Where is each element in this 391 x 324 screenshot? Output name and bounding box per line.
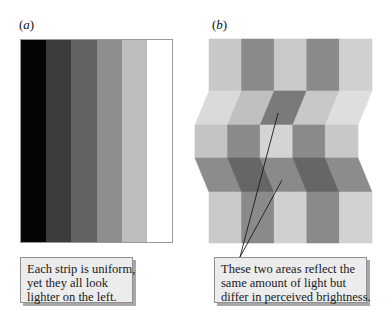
shade-cell-r3-c1 — [195, 125, 228, 158]
shade-cell-r5-c1 — [209, 192, 242, 243]
shade-cell-r1-c4 — [307, 39, 340, 91]
shade-cell-r2-c5 — [325, 91, 372, 125]
shade-cell-r1-c1 — [209, 39, 242, 91]
gray-strip-3 — [71, 40, 96, 242]
shade-cell-r4-c4 — [293, 158, 340, 192]
shade-cell-r3-c3 — [260, 125, 293, 158]
gray-strip-6 — [147, 40, 172, 242]
shade-cell-r5-c2 — [242, 192, 275, 243]
shade-cell-r5-c4 — [307, 192, 340, 243]
gray-strip-5 — [122, 40, 147, 242]
gray-strip-2 — [46, 40, 71, 242]
callout-line: Each strip is uniform, — [27, 262, 127, 276]
gray-strips-panel — [20, 39, 173, 243]
shade-cell-r3-c4 — [293, 125, 326, 158]
shade-cell-r4-c2 — [228, 158, 275, 192]
shade-cell-r5-c5 — [339, 192, 372, 243]
shade-cell-r1-c5 — [339, 39, 372, 91]
panel-b-label: (b) — [212, 17, 227, 33]
label-paren-close: ) — [30, 17, 34, 32]
callout-line: differ in perceived brightness. — [221, 290, 361, 304]
pointer-line-1 — [240, 113, 278, 257]
shade-cell-r2-c3 — [260, 91, 307, 125]
shade-cell-r4-c3 — [260, 158, 307, 192]
shade-cell-r5-c3 — [274, 192, 307, 243]
callout-box-b: These two areas reflect the same amount … — [214, 257, 367, 303]
label-paren-close: ) — [223, 17, 227, 32]
shade-cell-r4-c5 — [325, 158, 372, 192]
panel-a-label: (a) — [19, 17, 34, 33]
callout-line: These two areas reflect the — [221, 262, 361, 276]
callout-line: same amount of light but — [221, 276, 361, 290]
shade-cell-r1-c3 — [274, 39, 307, 91]
gray-strip-4 — [97, 40, 122, 242]
callout-line: lighter on the left. — [27, 290, 127, 304]
gray-strip-1 — [21, 40, 46, 242]
callout-box-a: Each strip is uniform, yet they all look… — [20, 257, 133, 303]
shade-cell-r3-c5 — [325, 125, 358, 158]
shade-cell-r1-c2 — [242, 39, 275, 91]
shade-cell-r2-c2 — [228, 91, 275, 125]
callout-line: yet they all look — [27, 276, 127, 290]
shade-cell-r2-c1 — [195, 91, 242, 125]
shade-cell-r4-c1 — [195, 158, 242, 192]
shade-cell-r2-c4 — [293, 91, 340, 125]
shade-cell-r3-c2 — [228, 125, 261, 158]
pointer-line-2 — [240, 180, 282, 257]
